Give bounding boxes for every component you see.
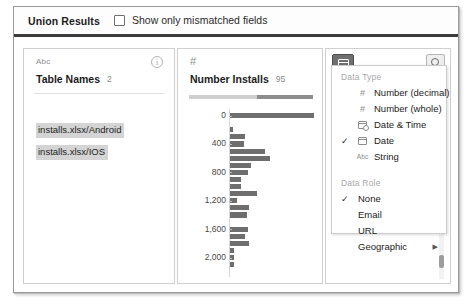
distribution-bar-filled [257,95,313,99]
histogram-bar[interactable] [230,212,247,217]
menu-item-label: Date & Time [374,119,426,130]
histogram-bar[interactable] [230,149,265,154]
axis-tick-mark [229,172,232,173]
histogram-bar[interactable] [230,234,245,239]
menu-item-label: Date [374,135,394,146]
menu-item-geographic[interactable]: Geographic▶ [332,239,446,255]
menu-item-number-decimal[interactable]: #Number (decimal) [332,85,446,101]
menu-item-label: URL [358,225,377,236]
menu-section-data-role-label: Data Role [332,172,446,191]
card-divider [34,93,164,94]
histogram-bar[interactable] [230,177,241,182]
value-text: installs.xlsx/IOS [36,145,108,160]
field-name-text: Table Names [36,73,100,85]
histogram-bar[interactable] [230,170,248,175]
axis-tick-label: 400 [188,138,226,148]
mismatched-fields-label: Show only mismatched fields [132,14,267,26]
histogram-bar[interactable] [230,113,314,118]
field-count: 2 [107,74,112,84]
mismatched-fields-checkbox-group[interactable]: Show only mismatched fields [114,14,267,26]
menu-section-data-type-label: Data Type [332,66,446,85]
histogram-bar[interactable] [230,184,241,189]
menu-item-label: None [358,193,381,204]
data-type-dropdown-menu[interactable]: Data Type #Number (decimal)#Number (whol… [331,65,447,234]
calendar-icon [358,137,367,145]
field-card-table-names[interactable]: Abc i Table Names2 installs.xlsx/Android… [23,48,175,284]
menu-item-label: String [374,151,399,162]
field-name-table-names: Table Names2 [36,73,112,85]
window-titlebar: Union Results Show only mismatched field… [14,7,458,37]
axis-tick-mark [229,201,232,202]
menu-item-number-whole[interactable]: #Number (whole) [332,101,446,117]
check-icon: ✓ [341,133,349,149]
axis-tick-label: 800 [188,167,226,177]
histogram-bar[interactable] [230,127,233,132]
field-name-number-installs: Number Installs95 [190,73,285,85]
abc-icon: Abc [356,149,369,165]
menu-item-string[interactable]: AbcString [332,149,446,165]
field-count: 95 [276,74,285,84]
list-item[interactable]: installs.xlsx/Android [36,119,164,141]
list-item[interactable]: installs.xlsx/IOS [36,141,164,163]
distribution-bar [189,95,313,99]
axis-tick-mark [229,144,232,145]
menu-item-label: Number (decimal) [374,87,450,98]
axis-tick-label: 1,200 [188,195,226,205]
menu-item-date-time[interactable]: Date & Time [332,117,446,133]
menu-item-none[interactable]: ✓None [332,191,446,207]
menu-section-data-role: ✓NoneEmailURLGeographic▶ [332,191,446,255]
menu-section-data-type: #Number (decimal)#Number (whole)Date & T… [332,85,446,165]
hash-icon: # [356,85,369,101]
axis-tick-mark [229,258,232,259]
histogram-bar[interactable] [230,241,249,246]
histogram-bar[interactable] [230,134,245,139]
axis-tick-label: 2,000 [188,252,226,262]
histogram-bar[interactable] [230,205,249,210]
histogram-bar[interactable] [230,262,234,267]
histogram-bar[interactable] [230,191,257,196]
menu-item-date[interactable]: ✓Date [332,133,446,149]
union-results-window: Union Results Show only mismatched field… [13,6,459,293]
abc-icon: Abc [36,57,50,66]
menu-separator [332,165,446,172]
histogram-bar[interactable] [230,156,270,161]
hash-icon: # [190,56,196,67]
info-icon[interactable]: i [151,56,163,68]
axis-tick-mark [229,116,232,117]
scrollbar-thumb-secondary[interactable] [439,255,444,268]
menu-item-label: Email [358,209,382,220]
check-icon: ✓ [341,191,349,207]
mismatched-fields-checkbox[interactable] [114,15,125,26]
histogram-bar[interactable] [230,227,248,232]
hash-icon: # [356,101,369,117]
axis-tick-label: 1,600 [188,224,226,234]
screenshot-root: Union Results Show only mismatched field… [0,0,472,304]
histogram-chart[interactable]: 04008001,2001,6002,000 [188,109,316,277]
field-value-list: installs.xlsx/Android installs.xlsx/IOS [36,119,164,163]
field-card-number-installs[interactable]: # Number Installs95 04008001,2001,6002,0… [177,48,323,284]
menu-item-url[interactable]: URL [332,223,446,239]
calendar-clock-icon [358,121,367,129]
histogram-bar[interactable] [230,141,244,146]
axis-tick-label: 0 [188,110,226,120]
page-title: Union Results [28,15,100,27]
field-name-text: Number Installs [190,73,269,85]
menu-item-email[interactable]: Email [332,207,446,223]
menu-item-label: Number (whole) [374,103,442,114]
chevron-right-icon: ▶ [433,239,438,255]
value-text: installs.xlsx/Android [36,123,124,138]
histogram-bar[interactable] [230,163,251,168]
axis-tick-mark [229,229,232,230]
histogram-bar[interactable] [230,248,234,253]
menu-item-label: Geographic [358,241,407,252]
